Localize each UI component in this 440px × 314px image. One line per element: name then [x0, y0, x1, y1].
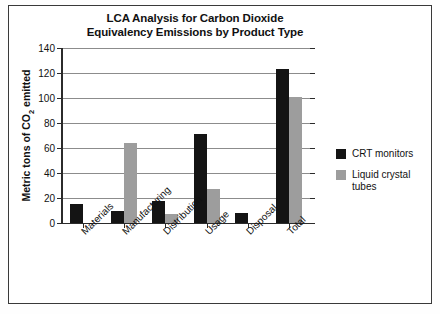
legend-swatch-icon	[336, 170, 346, 180]
y-tick-mark-right	[310, 173, 315, 174]
y-axis-title: Metric tons of CO2 emitted	[20, 56, 35, 216]
chart-legend: CRT monitorsLiquid crystal tubes	[336, 148, 434, 202]
y-tick-mark-right	[310, 198, 315, 199]
chart-title-line-1: LCA Analysis for Carbon Dioxide	[60, 12, 330, 26]
bar-group	[269, 48, 310, 223]
y-tick-mark-right	[310, 123, 315, 124]
y-axis-title-suffix: emitted	[20, 70, 32, 110]
y-tick-label: 40	[44, 168, 55, 179]
chart-title: LCA Analysis for Carbon Dioxide Equivale…	[60, 12, 330, 39]
bar	[289, 97, 302, 223]
y-tick-label: 100	[38, 93, 55, 104]
chart-title-line-2: Equivalency Emissions by Product Type	[60, 26, 330, 40]
plot-area: 020406080100120140 MaterialsManufacturin…	[62, 48, 310, 223]
bar-group	[62, 48, 103, 223]
bar-series-container	[62, 48, 310, 223]
legend-item[interactable]: CRT monitors	[336, 148, 434, 160]
y-axis-title-prefix: Metric tons of CO	[20, 114, 32, 202]
chart-figure: LCA Analysis for Carbon Dioxide Equivale…	[0, 0, 440, 314]
legend-label: CRT monitors	[352, 148, 413, 160]
y-tick-mark-right	[310, 73, 315, 74]
legend-item[interactable]: Liquid crystal tubes	[336, 169, 434, 193]
bar-group	[103, 48, 144, 223]
bar	[111, 211, 124, 224]
legend-label: Liquid crystal tubes	[352, 169, 434, 193]
bar	[276, 69, 289, 223]
bar	[124, 143, 137, 223]
y-tick-mark-right	[310, 48, 315, 49]
bar-group	[227, 48, 268, 223]
bar	[70, 204, 83, 223]
y-tick-label: 20	[44, 193, 55, 204]
y-tick-label: 140	[38, 43, 55, 54]
bar	[235, 213, 248, 223]
legend-swatch-icon	[336, 149, 346, 159]
y-tick-label: 80	[44, 118, 55, 129]
y-tick-label: 60	[44, 143, 55, 154]
y-tick-label: 120	[38, 68, 55, 79]
y-tick-mark-right	[310, 148, 315, 149]
y-tick-mark-right	[310, 223, 315, 224]
y-tick-mark	[57, 223, 62, 224]
y-axis-title-subscript: 2	[27, 110, 36, 114]
y-tick-mark-right	[310, 98, 315, 99]
y-tick-label: 0	[49, 218, 55, 229]
